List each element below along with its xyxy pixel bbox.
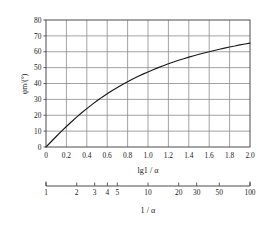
secondary-tick-label: 3 [93,188,97,197]
y-tick-label: 10 [34,127,42,136]
x-tick-label: 1.4 [184,151,194,160]
y-axis-title: φm/(°) [20,73,29,94]
x-tick-label: 1.8 [225,151,235,160]
secondary-tick-label: 30 [193,188,201,197]
x-tick-label: 0.4 [82,151,92,160]
x-tick-label: 2.0 [245,151,255,160]
x-tick-label: 0.2 [62,151,72,160]
y-axis-tick-labels: 01020304050607080 [34,16,46,152]
x-tick-label: 0.6 [103,151,113,160]
x-tick-label: 0.8 [123,151,133,160]
y-tick-label: 0 [38,143,42,152]
secondary-tick-label: 50 [216,188,224,197]
y-tick-label: 70 [34,32,42,41]
y-axis-title-group: φm/(°) [20,73,29,94]
y-tick-label: 20 [34,111,42,120]
chart-figure: 00.20.40.60.81.01.21.41.61.82.0 01020304… [0,0,275,227]
phase-margin-chart: 00.20.40.60.81.01.21.41.61.82.0 01020304… [0,0,275,227]
y-tick-label: 80 [34,16,42,25]
secondary-tick-label: 2 [75,188,79,197]
secondary-axis-title: 1 / α [141,206,156,215]
secondary-tick-label: 20 [175,188,183,197]
secondary-tick-label: 10 [144,188,152,197]
x-axis-title: lg1 / α [137,166,159,175]
y-tick-label: 40 [34,79,42,88]
y-tick-label: 60 [34,47,42,56]
secondary-tick-label: 5 [115,188,119,197]
secondary-tick-label: 4 [106,188,110,197]
y-tick-label: 30 [34,95,42,104]
x-tick-label: 0 [44,151,48,160]
x-tick-label: 1.0 [143,151,153,160]
secondary-tick-label: 100 [244,188,255,197]
y-tick-label: 50 [34,63,42,72]
secondary-tick-label: 1 [44,188,48,197]
x-tick-label: 1.2 [164,151,174,160]
x-tick-label: 1.6 [205,151,215,160]
